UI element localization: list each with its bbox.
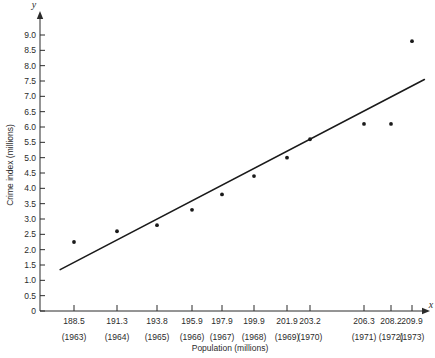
x-tick-sublabel: (1965) <box>145 332 170 342</box>
y-axis-variable: y <box>31 0 37 10</box>
x-tick-label: 201.9 <box>276 316 298 326</box>
y-tick-label: 9.0 <box>24 30 36 40</box>
x-tick-sublabel: (1971) <box>352 332 377 342</box>
x-tick-sublabel: (1973) <box>400 332 425 342</box>
y-tick-label: 6.5 <box>24 107 36 117</box>
y-tick-label: 0 <box>31 306 36 316</box>
x-tick-label: 197.9 <box>211 316 233 326</box>
y-tick-label: 8.5 <box>24 45 36 55</box>
x-tick-label: 195.9 <box>181 316 203 326</box>
x-tick-label: 208.2 <box>380 316 402 326</box>
y-tick-label: 7.5 <box>24 76 36 86</box>
data-point <box>285 156 289 160</box>
data-point <box>155 223 159 227</box>
y-tick-label: 4.5 <box>24 168 36 178</box>
data-point <box>389 122 393 126</box>
data-point <box>362 122 366 126</box>
x-tick-label: 199.9 <box>243 316 265 326</box>
x-tick-sublabel: (1964) <box>105 332 130 342</box>
x-tick-label: 193.8 <box>146 316 168 326</box>
y-tick-label: 3.0 <box>24 214 36 224</box>
x-tick-sublabel: (1966) <box>180 332 205 342</box>
x-axis-variable: x <box>428 299 434 310</box>
x-tick-sublabel: (1969) <box>275 332 300 342</box>
y-tick-label: 0.5 <box>24 291 36 301</box>
y-tick-label: 6.0 <box>24 122 36 132</box>
y-tick-label: 2.5 <box>24 229 36 239</box>
x-axis-title: Population (millions) <box>192 343 269 353</box>
y-tick-label: 5.0 <box>24 153 36 163</box>
y-tick-label: 7.0 <box>24 91 36 101</box>
data-point <box>220 193 224 197</box>
data-point <box>252 174 256 178</box>
x-tick-label: 188.5 <box>63 316 85 326</box>
x-tick-sublabel: (1970) <box>298 332 323 342</box>
y-tick-label: 1.5 <box>24 260 36 270</box>
x-tick-sublabel: (1968) <box>242 332 267 342</box>
x-tick-sublabel: (1967) <box>210 332 235 342</box>
plot-background <box>0 0 435 358</box>
data-point <box>115 229 119 233</box>
y-tick-label: 1.0 <box>24 275 36 285</box>
x-tick-label: 206.3 <box>353 316 375 326</box>
data-point <box>190 208 194 212</box>
y-tick-label: 4.0 <box>24 183 36 193</box>
data-point <box>410 39 414 43</box>
y-axis-title: Crime index (millions) <box>5 124 15 206</box>
data-point <box>308 137 312 141</box>
y-tick-label: 5.5 <box>24 137 36 147</box>
x-tick-label: 191.3 <box>106 316 128 326</box>
x-tick-label: 203.2 <box>299 316 321 326</box>
x-tick-label: 209.9 <box>401 316 423 326</box>
data-point <box>72 240 76 244</box>
scatter-plot: y x 00.51.01.52.02.53.03.54.04.55.05.56.… <box>0 0 435 358</box>
y-tick-label: 3.5 <box>24 199 36 209</box>
y-tick-label: 2.0 <box>24 245 36 255</box>
x-tick-sublabel: (1963) <box>62 332 87 342</box>
y-tick-label: 8.0 <box>24 61 36 71</box>
